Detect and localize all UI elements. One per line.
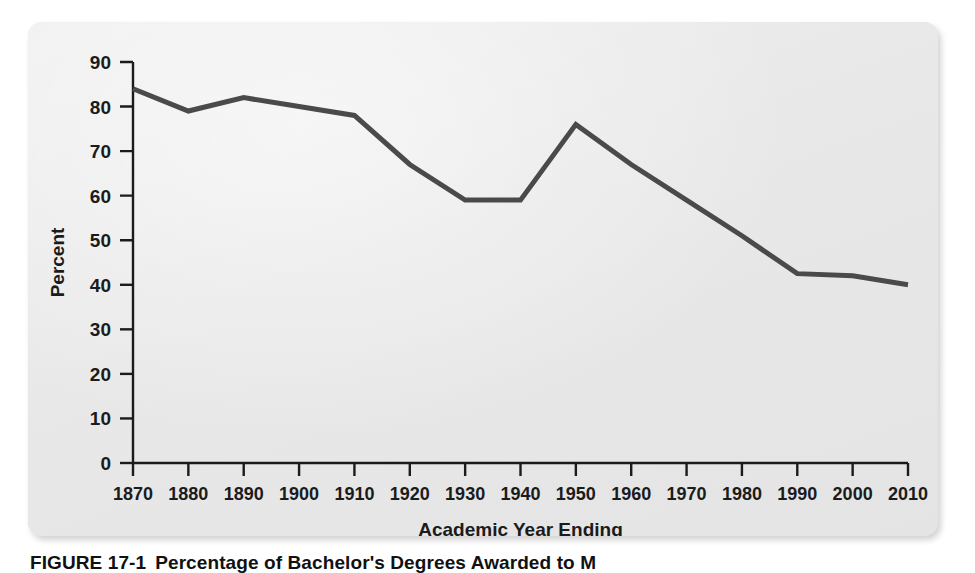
x-axis-tick-label: 1940 [500,484,540,504]
figure-caption-number: FIGURE 17-1 [30,552,146,573]
figure-caption-text: Percentage of Bachelor's Degrees Awarded… [155,552,596,573]
y-axis: 0102030405060708090 [90,52,133,474]
y-axis-tick-label: 60 [90,186,111,207]
x-axis-tick-label: 1960 [611,484,651,504]
x-axis-tick-label: 1980 [722,484,762,504]
y-axis-tick-label: 90 [90,52,111,73]
x-axis-tick-label: 1870 [113,484,153,504]
x-axis-tick-label: 1920 [390,484,430,504]
y-axis-tick-label: 10 [90,408,111,429]
y-axis-title: Percent [47,227,68,297]
x-axis-tick-label: 1970 [667,484,707,504]
line-chart-plot: 0102030405060708090 18701880189019001910… [28,22,938,536]
y-axis-tick-label: 70 [90,141,111,162]
x-axis-tick-label: 1890 [224,484,264,504]
data-series-group [133,89,908,285]
x-axis-tick-label: 1880 [168,484,208,504]
figure-card: 0102030405060708090 18701880189019001910… [28,22,938,536]
x-axis: 1870188018901900191019201930194019501960… [113,463,928,504]
y-axis-tick-label: 30 [90,319,111,340]
data-line [133,89,908,285]
y-axis-tick-label: 0 [100,453,111,474]
y-axis-tick-label: 20 [90,364,111,385]
x-axis-title: Academic Year Ending [418,519,623,536]
y-axis-tick-label: 50 [90,230,111,251]
figure-caption: FIGURE 17-1Percentage of Bachelor's Degr… [30,552,930,573]
y-axis-tick-label: 80 [90,97,111,118]
x-axis-tick-label: 1930 [445,484,485,504]
x-axis-tick-label: 1950 [556,484,596,504]
x-axis-tick-label: 2000 [833,484,873,504]
x-axis-tick-label: 1910 [334,484,374,504]
x-axis-tick-label: 1990 [777,484,817,504]
x-axis-tick-label: 2010 [888,484,928,504]
y-axis-tick-label: 40 [90,275,111,296]
x-axis-tick-label: 1900 [279,484,319,504]
